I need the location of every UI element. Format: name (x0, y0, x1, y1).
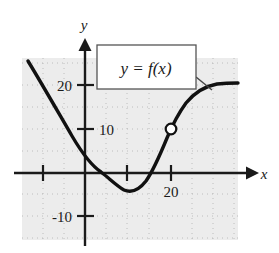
open-circle-marker (166, 124, 177, 135)
curve-label: y = f(x) (118, 59, 171, 78)
x-tick-label-20: 20 (164, 184, 179, 200)
y-tick-label-10: 10 (99, 122, 114, 138)
y-axis-arrowhead (79, 38, 92, 51)
y-axis-label: y (79, 17, 88, 33)
y-tick-label-20: 20 (57, 78, 72, 94)
y-tick-label-minus-10: -10 (52, 209, 72, 225)
x-axis-label: x (260, 166, 268, 182)
function-graph-figure: 20 10 -10 20 y x y = f(x) (0, 0, 279, 253)
x-axis-arrowhead (246, 167, 259, 180)
graph-canvas: 20 10 -10 20 y x y = f(x) (0, 0, 279, 253)
